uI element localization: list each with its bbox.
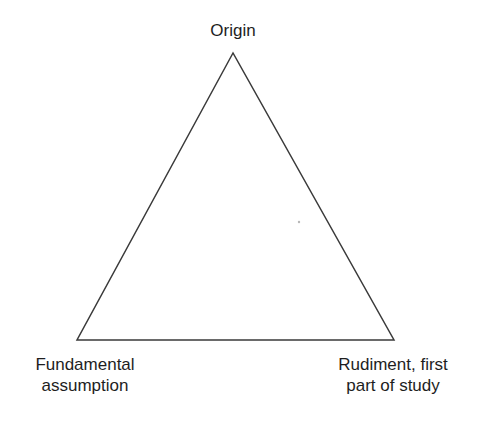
vertex-label-fundamental-assumption: Fundamental assumption: [10, 354, 160, 396]
origin-label: Origin: [210, 21, 255, 40]
stray-dot: [298, 221, 300, 223]
vertex-label-rudiment: Rudiment, first part of study: [318, 354, 468, 396]
triangle-shape: [77, 53, 394, 340]
vertex-label-origin: Origin: [193, 20, 273, 41]
fundamental-label-line1: Fundamental: [10, 354, 160, 375]
fundamental-label-line2: assumption: [10, 375, 160, 396]
rudiment-label-line1: Rudiment, first: [318, 354, 468, 375]
rudiment-label-line2: part of study: [318, 375, 468, 396]
